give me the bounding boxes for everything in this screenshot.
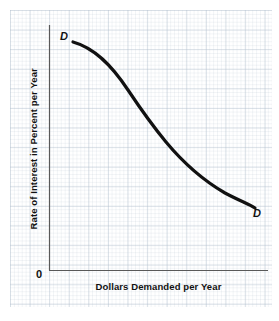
x-axis-title: Dollars Demanded per Year	[49, 282, 268, 292]
y-axis-title: Rate of Interest in Percent per Year	[29, 39, 39, 259]
chart-figure: D D 0 Dollars Demanded per Year Rate of …	[0, 0, 279, 321]
curve-start-label-d: D	[60, 31, 68, 42]
origin-label: 0	[36, 269, 42, 280]
demand-curve	[73, 42, 255, 208]
curve-end-label-d: D	[253, 208, 261, 219]
